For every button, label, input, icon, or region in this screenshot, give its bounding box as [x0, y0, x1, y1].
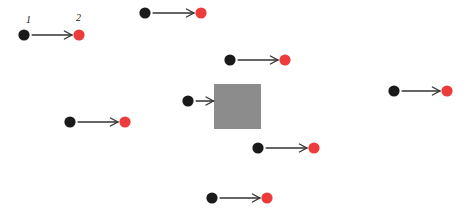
source-dot[interactable] [18, 29, 29, 40]
target-dot[interactable] [261, 192, 272, 203]
arrow-pair-5[interactable] [388, 85, 452, 96]
arrow-pair-4[interactable] [182, 95, 213, 106]
target-dot[interactable] [441, 85, 452, 96]
target-dot[interactable] [119, 116, 130, 127]
source-dot[interactable] [64, 116, 75, 127]
source-dot[interactable] [224, 54, 235, 65]
source-dot[interactable] [388, 85, 399, 96]
arrow-pair-1[interactable] [18, 29, 84, 40]
gray-square[interactable] [214, 84, 261, 129]
source-dot[interactable] [252, 142, 263, 153]
target-dot[interactable] [195, 7, 206, 18]
target-dot[interactable] [279, 54, 290, 65]
source-dot[interactable] [182, 95, 193, 106]
diagram-canvas: 12 [0, 0, 471, 212]
label-2: 2 [76, 13, 81, 23]
source-dot[interactable] [206, 192, 217, 203]
target-dot[interactable] [73, 29, 84, 40]
label-1: 1 [26, 15, 31, 25]
source-dot[interactable] [139, 7, 150, 18]
arrow-pair-3[interactable] [224, 54, 290, 65]
arrow-pair-7[interactable] [252, 142, 319, 153]
arrow-pair-2[interactable] [139, 7, 206, 18]
arrow-pair-8[interactable] [206, 192, 272, 203]
target-dot[interactable] [308, 142, 319, 153]
vector-layer [0, 0, 471, 212]
arrow-pair-6[interactable] [64, 116, 130, 127]
